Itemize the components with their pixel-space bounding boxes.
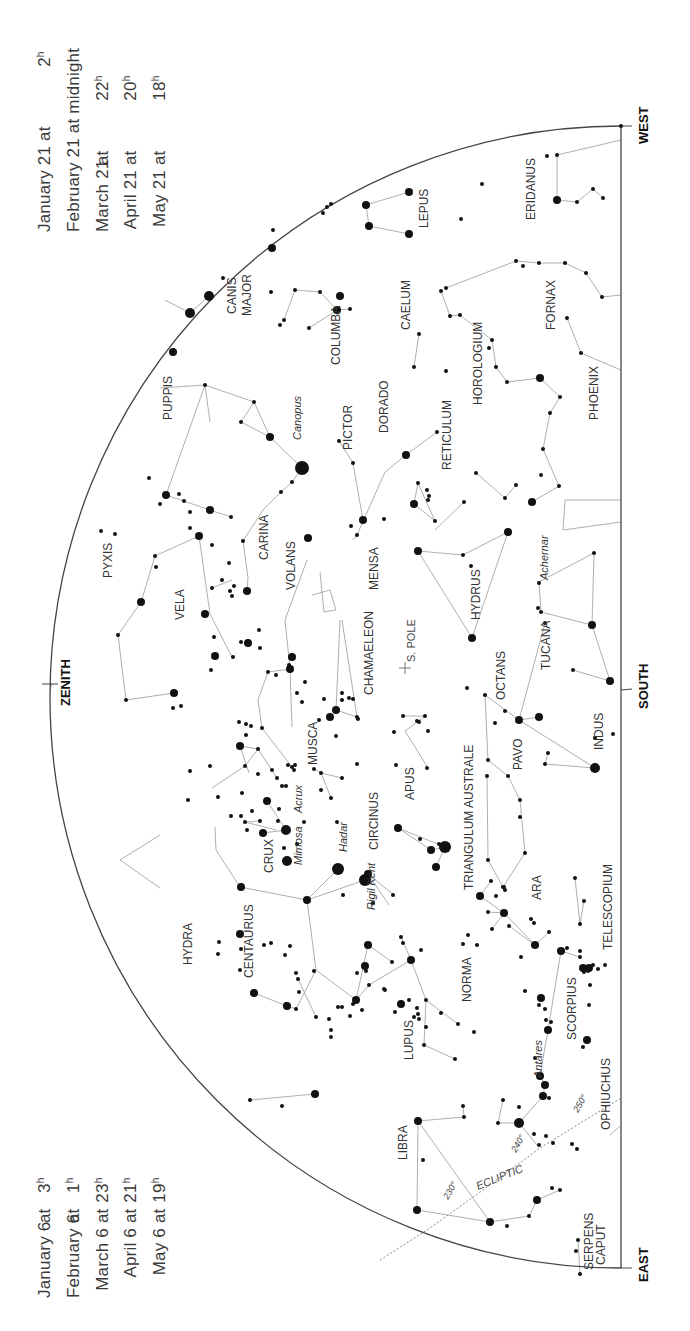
- constellation-label: VELA: [173, 589, 187, 620]
- star: [544, 1134, 548, 1138]
- star: [439, 1011, 443, 1015]
- constellation-line: [418, 551, 463, 555]
- time-at: at: [121, 1208, 140, 1223]
- star: [347, 696, 351, 700]
- star: [421, 1158, 425, 1162]
- star: [201, 610, 209, 618]
- star: [459, 217, 463, 221]
- star: [393, 1010, 397, 1014]
- star: [565, 316, 569, 320]
- star: [229, 515, 233, 519]
- star: [405, 188, 413, 196]
- star: [364, 969, 368, 973]
- star: [276, 819, 280, 823]
- constellation-line: [243, 541, 248, 578]
- star: [321, 211, 325, 215]
- star: [269, 941, 273, 945]
- star: [432, 863, 440, 871]
- constellation-label: MENSA: [367, 547, 381, 590]
- constellation-label: NORMA: [460, 957, 474, 1002]
- star: [547, 1096, 551, 1100]
- star: [558, 1188, 562, 1192]
- star: [158, 502, 162, 506]
- star-name-labels: CanopusAchernarAcruxMimosaHadarRigil Ken…: [291, 395, 550, 1079]
- star: [303, 680, 307, 684]
- star: [290, 480, 294, 484]
- time-suffix: h: [121, 1178, 132, 1184]
- star: [414, 1117, 422, 1125]
- time-date: January 21: [35, 146, 54, 232]
- constellation-line: [545, 764, 595, 768]
- star: [361, 962, 369, 970]
- constellation-line: [565, 263, 586, 273]
- constellation-label: COLUMBA: [329, 306, 343, 365]
- star: [259, 829, 267, 837]
- star: [359, 516, 367, 524]
- time-suffix: h: [64, 1178, 75, 1184]
- star: [415, 1006, 419, 1010]
- star: [244, 639, 252, 647]
- constellation-line: [592, 625, 610, 681]
- constellation-label: CANIS: [225, 277, 239, 314]
- star: [394, 824, 402, 832]
- star: [349, 524, 353, 528]
- star: [182, 499, 186, 503]
- constellation-line: [369, 960, 411, 985]
- star: [188, 510, 192, 514]
- time-row: March 21 at 22h: [93, 76, 113, 232]
- star-name-label: Antares: [532, 1040, 544, 1079]
- star: [578, 922, 582, 926]
- star: [227, 561, 231, 565]
- constellation-line: [212, 766, 245, 788]
- star: [170, 689, 178, 697]
- star: [171, 706, 175, 710]
- constellation-line: [312, 590, 330, 595]
- star: [390, 960, 394, 964]
- constellation-label: VOLANS: [284, 541, 298, 590]
- star: [329, 202, 333, 206]
- constellation-label: CHAMAELEON: [362, 611, 376, 695]
- time-suffix: h: [35, 51, 46, 57]
- star: [177, 492, 181, 496]
- constellation-line: [476, 473, 505, 498]
- star: [555, 153, 559, 157]
- star: [544, 1018, 548, 1022]
- star: [229, 814, 233, 818]
- time-hour: 22: [93, 81, 112, 100]
- constellation-line: [441, 291, 450, 316]
- star: [600, 295, 604, 299]
- time-row: February 21 at midnight: [64, 48, 84, 232]
- star: [433, 519, 437, 523]
- star: [517, 1105, 521, 1109]
- constellation-line: [563, 500, 565, 530]
- star: [545, 154, 549, 158]
- constellation-line: [368, 945, 392, 962]
- constellation-line: [267, 801, 286, 830]
- star: [322, 697, 326, 701]
- star: [317, 718, 321, 722]
- star: [514, 1118, 524, 1128]
- star: [382, 517, 386, 521]
- star: [537, 581, 541, 585]
- star: [518, 798, 522, 802]
- star: [257, 628, 261, 632]
- star: [592, 551, 596, 555]
- star: [619, 124, 623, 128]
- star: [407, 998, 411, 1002]
- time-suffix: h: [35, 1178, 46, 1184]
- star: [318, 290, 322, 294]
- constellation-label: CRUX: [262, 839, 276, 873]
- constellation-line: [505, 485, 516, 498]
- star: [424, 1025, 428, 1029]
- star: [332, 706, 340, 714]
- constellation-line: [550, 397, 560, 413]
- star: [591, 187, 595, 191]
- degree-240-label: 240°: [509, 1133, 528, 1155]
- star: [307, 326, 311, 330]
- time-hour: 2: [35, 57, 54, 67]
- star: [186, 798, 190, 802]
- star: [588, 983, 592, 987]
- star: [239, 814, 243, 818]
- time-at: at: [93, 150, 112, 165]
- constellation-line: [258, 749, 277, 778]
